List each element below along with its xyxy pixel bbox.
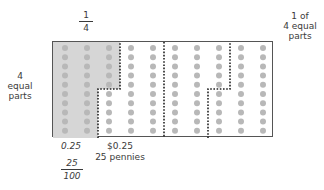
dot [172,119,178,125]
dot [172,63,178,69]
dot [84,100,90,106]
dot [216,82,222,88]
fraction-denominator: 100 [61,170,83,181]
money-label: $0.25 [100,141,140,151]
dot [150,73,156,79]
dot [260,82,266,88]
dot [150,45,156,51]
grid-graphic [53,42,274,138]
dot [62,54,68,60]
left-label-line-1: 4 [0,71,40,81]
dot [128,109,134,115]
dot [128,119,134,125]
fraction-numerator: 25 [61,158,83,170]
dot [216,91,222,97]
dot [62,73,68,79]
dot [238,45,244,51]
dot [128,45,134,51]
left-label-line-2: equal [0,81,40,91]
fraction-denominator: 4 [79,22,93,33]
dot [106,119,112,125]
dot [216,73,222,79]
dot [216,54,222,60]
dot [150,63,156,69]
dot [172,100,178,106]
dot [172,82,178,88]
dot [106,128,112,134]
left-label: 4 equal parts [0,71,40,101]
title-fraction: 1 4 [79,10,93,33]
dot [238,128,244,134]
dot [84,63,90,69]
dot [62,63,68,69]
right-label-line-3: parts [276,31,324,41]
dot [194,54,200,60]
fraction-numerator: 1 [79,10,93,22]
dot [84,73,90,79]
dot [128,54,134,60]
dot [260,128,266,134]
dot [62,91,68,97]
dot [62,109,68,115]
dot [84,82,90,88]
dot [260,100,266,106]
dot [194,100,200,106]
dot [172,128,178,134]
dot [238,100,244,106]
dot [216,119,222,125]
dot [216,45,222,51]
dot [84,91,90,97]
dot [128,100,134,106]
dot [128,128,134,134]
dot [62,119,68,125]
dot [84,54,90,60]
dot [216,100,222,106]
dot [106,63,112,69]
dot [238,82,244,88]
dot [260,119,266,125]
dot [84,45,90,51]
dot [194,82,200,88]
dot [194,128,200,134]
dot [62,45,68,51]
dot [260,63,266,69]
dot [194,45,200,51]
pennies-label: 25 pennies [92,152,148,162]
dot [260,54,266,60]
dot [150,109,156,115]
dot [150,100,156,106]
dot [172,73,178,79]
dot [194,119,200,125]
dot [62,100,68,106]
dot [260,91,266,97]
dot [106,82,112,88]
dot [194,109,200,115]
dot [216,128,222,134]
dot [238,109,244,115]
dot [150,91,156,97]
dot [150,54,156,60]
dot [238,54,244,60]
decimal-label: 0.25 [56,141,86,151]
dot [128,91,134,97]
dot [150,82,156,88]
dot [194,63,200,69]
left-label-line-3: parts [0,91,40,101]
dot [84,109,90,115]
dot [128,73,134,79]
hundred-grid [52,41,273,137]
dot [260,109,266,115]
dot [238,119,244,125]
right-label-line-1: 1 of [276,11,324,21]
dot [106,109,112,115]
dot [238,63,244,69]
dot [150,119,156,125]
hundredths-fraction: 25 100 [61,158,83,181]
dot [62,82,68,88]
dot [106,100,112,106]
dot [172,109,178,115]
dot [84,128,90,134]
dot [106,54,112,60]
dot [150,128,156,134]
dot [172,54,178,60]
